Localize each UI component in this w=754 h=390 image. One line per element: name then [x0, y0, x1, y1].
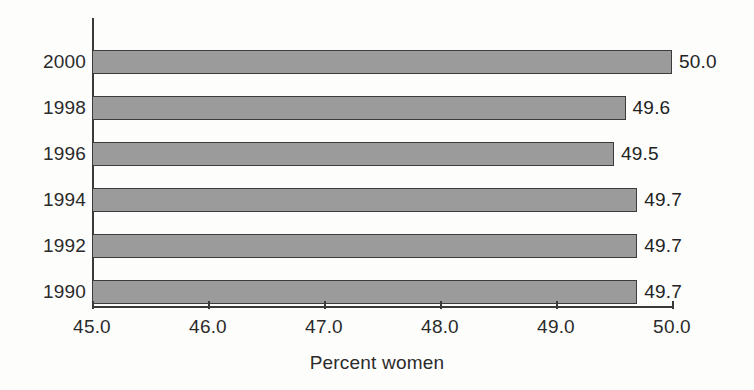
bar — [92, 96, 626, 120]
x-axis-tick-label: 47.0 — [279, 316, 369, 338]
plot-area: 50.049.649.549.749.749.7 — [92, 18, 672, 306]
bar-row: 49.6 — [92, 96, 672, 120]
x-axis-tick-mark — [556, 301, 558, 309]
bar-row: 49.5 — [92, 142, 672, 166]
x-axis-tick-label: 50.0 — [627, 316, 717, 338]
bar-value-label: 49.7 — [644, 281, 682, 303]
bar — [92, 188, 637, 212]
bar — [92, 142, 614, 166]
y-axis-tick-label: 1996 — [4, 143, 86, 165]
y-axis-tick-label: 1990 — [4, 281, 86, 303]
x-axis-tick-mark — [92, 301, 94, 309]
bar — [92, 234, 637, 258]
y-axis-tick-label: 1998 — [4, 97, 86, 119]
bar-value-label: 49.7 — [644, 235, 682, 257]
y-axis-tick-label: 1992 — [4, 235, 86, 257]
bar-value-label: 49.7 — [644, 189, 682, 211]
x-axis-tick-label: 48.0 — [395, 316, 485, 338]
x-axis-tick-mark — [324, 301, 326, 309]
x-axis-tick-mark — [672, 301, 674, 309]
x-axis-tick-label: 45.0 — [47, 316, 137, 338]
y-axis-tick-label: 1994 — [4, 189, 86, 211]
y-axis-tick-label: 2000 — [4, 51, 86, 73]
bar-row: 49.7 — [92, 234, 672, 258]
x-axis-tick-mark — [440, 301, 442, 309]
x-axis-ticks: 45.046.047.048.049.050.0 — [92, 308, 674, 348]
bar-row: 49.7 — [92, 280, 672, 304]
bar-value-label: 49.6 — [633, 97, 671, 119]
bar-row: 50.0 — [92, 50, 672, 74]
bar-chart-figure: 200019981996199419921990 50.049.649.549.… — [0, 0, 754, 390]
x-axis-tick-label: 46.0 — [163, 316, 253, 338]
x-axis-title: Percent women — [0, 352, 754, 374]
bar-value-label: 49.5 — [621, 143, 659, 165]
bar — [92, 50, 672, 74]
bar-row: 49.7 — [92, 188, 672, 212]
bar-value-label: 50.0 — [679, 51, 717, 73]
x-axis-tick-label: 49.0 — [511, 316, 601, 338]
x-axis-tick-mark — [208, 301, 210, 309]
